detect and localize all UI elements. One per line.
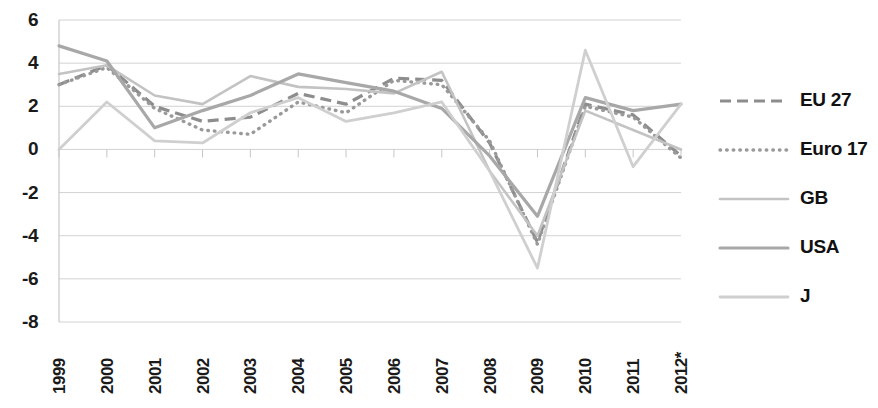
- legend-label-euro-17[interactable]: Euro 17: [800, 139, 868, 158]
- legend-swatch-euro-17: [718, 143, 790, 157]
- x-axis-tick-label: 2008: [482, 358, 499, 394]
- x-axis-tick-label: 2003: [242, 358, 259, 394]
- y-axis-tick-label: 2: [4, 96, 38, 115]
- x-axis-tick-label: 2007: [434, 358, 451, 394]
- gridlines: [59, 20, 681, 322]
- legend-label-j[interactable]: J: [800, 286, 810, 305]
- legend-label-eu-27[interactable]: EU 27: [800, 90, 851, 109]
- x-axis-tick-label: 2005: [338, 358, 355, 394]
- legend-swatch-gb: [718, 192, 790, 206]
- series-line-usa: [59, 46, 681, 216]
- x-axis-tick-label: 2006: [386, 358, 403, 394]
- x-axis-tick-label: 2010: [577, 358, 594, 394]
- legend-swatch-j: [718, 290, 790, 304]
- y-axis-tick-label: 6: [4, 10, 38, 29]
- y-axis-tick-label: -4: [4, 226, 38, 245]
- legend-swatch-eu-27: [718, 94, 790, 108]
- x-axis-tick-label: 2000: [99, 358, 116, 394]
- x-axis-tick-label: 2012*: [673, 352, 690, 394]
- x-axis-tick-label: 1999: [51, 358, 68, 394]
- x-axis-tick-label: 2011: [625, 359, 642, 394]
- y-axis-tick-label: -2: [4, 183, 38, 202]
- legend-swatch-usa: [718, 241, 790, 255]
- series-lines: [59, 46, 681, 268]
- x-axis-tick-label: 2001: [147, 358, 164, 394]
- legend-label-gb[interactable]: GB: [800, 188, 828, 207]
- x-axis-tick-label: 2009: [529, 358, 546, 394]
- legend-label-usa[interactable]: USA: [800, 237, 839, 256]
- y-axis-tick-label: 0: [4, 139, 38, 158]
- x-axis-tick-label: 2002: [195, 358, 212, 394]
- y-axis-tick-label: 4: [4, 53, 38, 72]
- x-axis-tick-label: 2004: [290, 358, 307, 394]
- x-axis-ticks: [59, 149, 681, 157]
- line-chart: 6420-2-4-6-8 199920002001200220032004200…: [0, 0, 878, 408]
- y-axis-tick-label: -8: [4, 312, 38, 331]
- series-line-gb: [59, 65, 681, 235]
- y-axis-tick-label: -6: [4, 269, 38, 288]
